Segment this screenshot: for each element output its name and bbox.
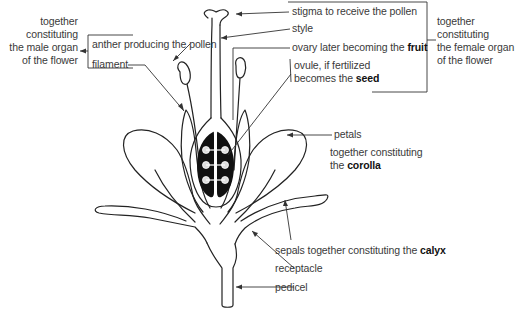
style-left xyxy=(211,18,212,118)
ovule-label-bold: seed xyxy=(356,72,380,84)
corolla-label-bold: corolla xyxy=(347,159,381,171)
ovary-label-bold: fruit xyxy=(407,41,427,53)
receptacle-label: receptacle xyxy=(275,262,322,275)
female-organ-caption: together constituting the female organ o… xyxy=(437,15,514,67)
ovary-label-text: ovary later becoming the xyxy=(292,41,407,53)
sepals-label: sepals together constituting the calyx xyxy=(275,244,446,257)
stigma-label: stigma to receive the pollen xyxy=(292,5,417,18)
right-sepal xyxy=(235,195,328,244)
sepals-label-bold: calyx xyxy=(420,244,446,256)
ovule-label-text: becomes the xyxy=(294,72,356,84)
ovule-label-line1: ovule, if fertilized xyxy=(294,59,379,72)
pedicel-label: pedicel xyxy=(275,281,308,294)
sepals-label-text: sepals together constituting the xyxy=(275,244,420,256)
stigma xyxy=(204,10,228,25)
flower-diagram: together constituting the male organ of … xyxy=(0,0,515,310)
left-sepal xyxy=(95,206,207,243)
male-caption-line: together xyxy=(8,15,78,28)
male-organ-caption: together constituting the male organ of … xyxy=(8,15,78,67)
female-caption-line: the female organ xyxy=(437,41,514,54)
corolla-label-text: the xyxy=(330,159,347,171)
style-right xyxy=(220,25,221,118)
female-caption-line: together xyxy=(437,15,514,28)
corolla-label-line2: the corolla xyxy=(330,159,422,172)
male-caption-line: constituting xyxy=(8,28,78,41)
ovule-label-line2: becomes the seed xyxy=(294,72,379,85)
left-anther xyxy=(178,62,190,85)
anther-label: anther producing the pollen xyxy=(92,38,217,51)
petals-label: petals xyxy=(334,128,361,141)
receptacle-left xyxy=(207,243,236,307)
style-label: style xyxy=(292,22,313,35)
male-caption-line: the male organ xyxy=(8,41,78,54)
right-anther xyxy=(236,58,246,78)
filament-label: filament xyxy=(92,58,128,71)
ovule-label: ovule, if fertilized becomes the seed xyxy=(294,59,379,85)
female-caption-line: constituting xyxy=(437,28,514,41)
female-caption-line: of the flower xyxy=(437,54,514,67)
ovary-label: ovary later becoming the fruit xyxy=(292,41,427,54)
corolla-label-line1: together constituting xyxy=(330,146,422,159)
male-caption-line: of the flower xyxy=(8,54,78,67)
corolla-label: together constituting the corolla xyxy=(330,146,422,172)
